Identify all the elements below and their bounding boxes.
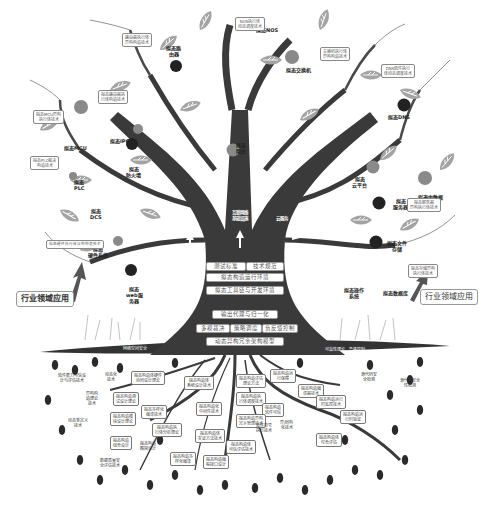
product-label-firewall: 拟态 防火墙 <box>126 166 141 178</box>
root-box: 拟态构造体硬件 协同设计理论 <box>131 371 165 385</box>
industry-application-left: 行业领域应用 <box>16 291 74 307</box>
product-label-storage: 拟态文件 存储 <box>387 240 407 252</box>
trunk-negative-feedback: 负反馈控制 <box>262 324 298 333</box>
tech-box-router: 路由器执行体 异构构造技术 <box>122 33 152 47</box>
product-label-ipc: 拟态IPC <box>110 138 129 144</box>
trunk-arrow-internet: 互联网络 基础设施 <box>232 210 248 222</box>
product-label-plc: 拟态 PLC <box>74 179 85 191</box>
trunk-toolchain: 拟态工具链与开发环境 <box>206 286 284 295</box>
trunk-arrow-cloud: 云服务 <box>276 216 288 222</box>
trunk-policy-schedule: 策略调度 <box>230 324 262 333</box>
root-label: 软件符号 执行技术 <box>256 423 272 433</box>
root-box: 拟态构造运 行时验证 <box>340 410 366 424</box>
ground-label-right: 可靠性理论、鲁棒控制 <box>325 347 365 352</box>
product-label-dcs: 拟态 DCS <box>90 208 102 220</box>
trunk-multimode-arbiter: 多模裁决 <box>196 324 230 333</box>
product-label-server: 拟态 服务器 <box>393 198 408 210</box>
root-box: 拟态构造体 实证方法技术 <box>195 429 225 443</box>
root-label: 拟态构造 精简设计 <box>140 441 156 451</box>
trunk-runtime-env: 拟态构造运行环境 <box>206 273 284 282</box>
root-box: 拟态构造多 样化编译 <box>170 452 196 466</box>
root-box: 拟态构造体 综合评估 <box>316 433 342 447</box>
tech-box-plc: 拟态PLC裁决 构造技术 <box>30 156 59 170</box>
root-label: 软件能力可信设 计与评估技术 <box>58 373 86 383</box>
root-box: 拟态构造体 可信评估技术 <box>226 440 256 454</box>
root-box: 拟态多样化 编译技术 <box>141 405 167 419</box>
root-label: 数据质量安 全评估技术 <box>100 458 120 468</box>
root-box: 拟态构造评估 理论方法 <box>236 374 266 388</box>
trunk-tech-spec: 技术规范 <box>246 262 284 271</box>
ground-label-left: 网络空间安全 <box>123 346 147 351</box>
root-label: 动态化 技术 <box>105 372 117 382</box>
root-label: 动态重定义 技术 <box>68 418 88 428</box>
tech-box-mcu: 拟态MCU异构 执行体技术 <box>33 110 64 124</box>
product-label-cloud: 拟态 云平台 <box>352 176 367 188</box>
root-label: 源代码安全 性检测 <box>400 378 420 388</box>
root-box: 拟态构造执 行体分析理论 <box>152 423 182 437</box>
root-box: 拟态构造编 程接口设计 <box>203 455 229 469</box>
root-label: 异构构 造理论 技术 <box>86 391 98 406</box>
root-box: 拟态构造 组合设计 <box>110 436 132 450</box>
tech-box-nos: NOS执行体 动态调度技术 <box>235 17 265 31</box>
trunk-arrow-industrial: 工业 控制 <box>181 218 189 230</box>
product-label-web-server: 拟态 web服 务器 <box>126 286 143 304</box>
product-label-mcu: 拟态MCU <box>64 145 87 151</box>
product-label-os: 拟态操作 系统 <box>344 287 364 299</box>
root-box: 拟态构造测 试设计理论 <box>113 392 139 406</box>
trunk-test-standard: 测试标准 <box>206 262 246 271</box>
tech-box-switch: 交换机执行体 异构构造技术 <box>320 47 350 61</box>
root-box: 拟态构造运行 时监控技术 <box>316 395 346 409</box>
tech-box-server: 拟态服务器 异构执行体技术 <box>407 198 441 212</box>
product-label-gateway: 拟态 网关 <box>236 142 246 154</box>
root-label: 源代码安 全检测 <box>361 372 377 382</box>
industry-application-right: 行业领域应用 <box>420 289 478 305</box>
trunk-arrow-management: 管理 <box>300 254 308 260</box>
product-label-database: 拟态数据库 <box>383 290 408 296</box>
trunk-output-proxy: 输出代理与归一化 <box>212 310 278 319</box>
tech-box-hardware: 拟态硬件执行体异构构造技术 <box>46 240 104 249</box>
tech-box-dns: DNS软件执行 体动态调度技术 <box>381 64 415 78</box>
tech-box-router-executor: 拟态路由器执 行体构造技术 <box>98 90 128 104</box>
root-box: 拟态构造体 系统设计技术 <box>184 376 214 390</box>
root-box: 拟态构造化 中间件技术 <box>196 402 222 416</box>
root-box: 拟态构造模 块设计理论 <box>110 412 136 426</box>
tech-box-storage: 拟态存储异构 执行体技术 <box>408 264 438 278</box>
trunk-dhr-model: 动态异构冗余架构模型 <box>206 337 284 346</box>
product-label-router: 拟态路 由器 <box>166 45 181 57</box>
root-label: 异/同构 化技术 <box>280 420 293 430</box>
product-label-dns: 拟态DNS <box>388 114 410 120</box>
product-label-switch: 拟态交换机 <box>286 67 311 73</box>
root-box: 拟态构造运 行保障 <box>270 369 296 383</box>
